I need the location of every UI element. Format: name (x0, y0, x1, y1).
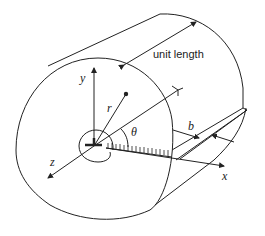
radius-point (124, 92, 128, 96)
cylinder-crack-diagram: unit length y z x r θ (0, 0, 265, 236)
theta-label: θ (131, 125, 137, 139)
crack-surface (106, 148, 172, 157)
theta-arc (121, 129, 128, 147)
b-arrow-right (212, 135, 234, 142)
angle-line-end-marker (172, 86, 183, 96)
radius-label: r (107, 101, 112, 115)
z-axis-label: z (49, 155, 55, 169)
b-label: b (188, 119, 194, 133)
z-axis (48, 146, 94, 178)
x-axis-label: x (221, 169, 228, 183)
b-arrow-left (173, 130, 199, 138)
y-axis-label: y (79, 71, 86, 85)
unit-length-label: unit length (153, 48, 204, 60)
